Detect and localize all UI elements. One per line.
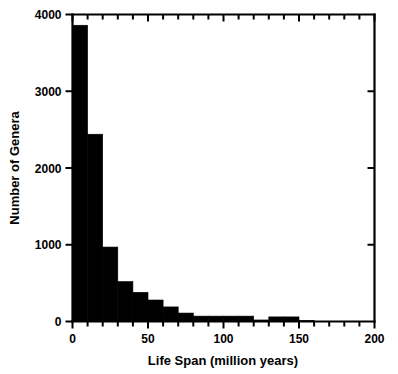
histogram-bar xyxy=(148,300,163,321)
y-tick-label: 0 xyxy=(55,315,62,329)
y-tick-label: 3000 xyxy=(35,85,62,99)
x-tick-label: 0 xyxy=(69,332,76,346)
x-tick-label: 200 xyxy=(364,332,384,346)
histogram-bar xyxy=(133,292,148,321)
x-tick-label: 100 xyxy=(213,332,233,346)
histogram-bar xyxy=(88,134,103,321)
y-tick-label: 1000 xyxy=(35,238,62,252)
histogram-bar xyxy=(163,307,178,322)
histogram-bar xyxy=(73,25,88,321)
y-axis-label: Number of Genera xyxy=(7,111,22,225)
histogram-bar xyxy=(178,313,193,321)
x-axis-label: Life Span (million years) xyxy=(148,353,298,368)
x-tick-label: 50 xyxy=(141,332,155,346)
chart-figure: 050100150200 01000200030004000 Life Span… xyxy=(0,0,398,374)
histogram-chart: 050100150200 01000200030004000 Life Span… xyxy=(0,0,398,374)
y-tick-label: 4000 xyxy=(35,8,62,22)
x-tick-label: 150 xyxy=(289,332,309,346)
histogram-bar xyxy=(118,282,133,322)
histogram-bar xyxy=(103,247,118,321)
y-tick-label: 2000 xyxy=(35,162,62,176)
